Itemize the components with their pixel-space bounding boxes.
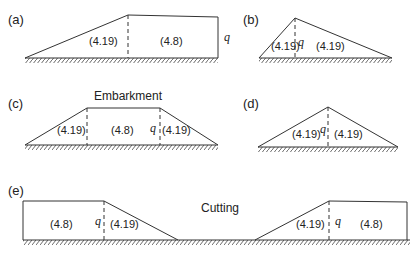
panel-e-label: (e) <box>8 183 24 198</box>
q-label: q <box>335 214 341 228</box>
right-bank-outline <box>255 201 407 240</box>
region-label: (4.8) <box>111 124 134 136</box>
panel-title: Cutting <box>201 201 239 215</box>
q-label: q <box>224 30 230 44</box>
region-label: (4.8) <box>160 35 183 47</box>
ground-hatch <box>25 58 218 63</box>
region-label: (4.19) <box>110 218 139 230</box>
region-label: (4.19) <box>57 124 86 136</box>
region-label: (4.19) <box>316 40 345 52</box>
region-label: (4.19) <box>89 35 118 47</box>
q-label: q <box>298 35 304 49</box>
ground-hatch <box>25 145 218 150</box>
ground-hatch <box>23 240 410 245</box>
ground-hatch <box>259 58 392 63</box>
panel-c-label: (c) <box>8 96 23 111</box>
triangle-outline <box>258 107 398 147</box>
panel-e: (e) Cutting (4.8) q (4.19) (4.19) q (4.8… <box>8 183 410 245</box>
panel-c: (c) Embarkment (4.19) (4.8) q (4.19) <box>8 89 218 150</box>
load-distribution-diagram: (a) (4.19) (4.8) q (b) (4.19) q (4.19) (… <box>0 0 419 261</box>
region-label: (4.8) <box>50 218 73 230</box>
ground-hatch <box>258 147 398 152</box>
panel-title: Embarkment <box>94 89 163 103</box>
panel-a-label: (a) <box>8 12 24 27</box>
embankment-outline <box>25 15 218 58</box>
region-label: (4.8) <box>360 218 383 230</box>
triangle-outline <box>259 18 392 58</box>
region-label: (4.19) <box>162 124 191 136</box>
panel-a: (a) (4.19) (4.8) q <box>8 12 230 63</box>
panel-b-label: (b) <box>243 12 259 27</box>
q-label: q <box>150 121 156 135</box>
region-label: (4.19) <box>296 218 325 230</box>
region-label: (4.19) <box>271 40 300 52</box>
panel-d-label: (d) <box>243 96 259 111</box>
q-label: q <box>320 122 326 136</box>
region-label: (4.19) <box>334 128 363 140</box>
panel-b: (b) (4.19) q (4.19) <box>243 12 392 63</box>
q-label: q <box>95 214 101 228</box>
region-label: (4.19) <box>292 128 321 140</box>
panel-d: (d) (4.19) q (4.19) <box>243 96 398 152</box>
